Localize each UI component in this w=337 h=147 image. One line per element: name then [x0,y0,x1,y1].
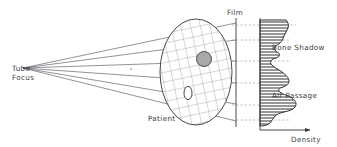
bone-shadow-label: Bone Shadow [272,43,325,52]
diagram-canvas: Tube Focus Patient Film Bone Shadow Air … [0,0,337,147]
air-inclusion-ellipse [184,86,192,99]
tube-focus-label-line1: Tube [11,64,30,73]
film-label: Film [227,8,243,17]
xray-density-diagram: Tube Focus Patient Film Bone Shadow Air … [0,0,337,147]
density-label: Density [291,135,321,144]
tube-focus-label-line2: Focus [12,73,34,82]
patient-label: Patient [148,114,175,123]
air-passage-label: Air Passage [272,91,318,100]
center-ray-dot [130,68,131,69]
